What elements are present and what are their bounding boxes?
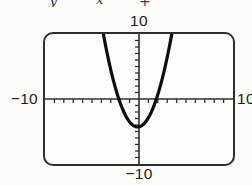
equation-fragment-char: x [96, 0, 103, 7]
calculator-screen-frame [43, 32, 235, 166]
equation-fragment-char: + [139, 0, 151, 7]
graph-canvas [45, 34, 233, 164]
window-ymin-label: −10 [43, 165, 235, 183]
window-ymax-label: 10 [43, 12, 235, 30]
window-xmin-label: −10 [2, 90, 38, 108]
equation-fragment: y x + [0, 0, 252, 7]
window-xmax-label: 10 [237, 90, 252, 108]
equation-fragment-char: y [49, 0, 57, 7]
